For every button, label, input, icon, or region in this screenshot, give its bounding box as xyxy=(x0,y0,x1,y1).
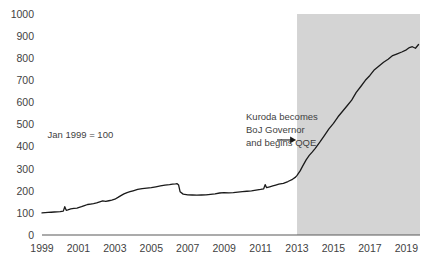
x-tick-label: 2011 xyxy=(249,242,272,254)
x-tick-label: 2005 xyxy=(140,242,164,254)
x-tick-label: 1999 xyxy=(30,242,54,254)
x-tick-label: 2017 xyxy=(358,242,382,254)
x-tick-label: 2007 xyxy=(176,242,200,254)
x-tick-label: 2019 xyxy=(395,242,419,254)
base-index-note: Jan 1999 = 100 xyxy=(47,129,113,140)
x-tick-label: 2013 xyxy=(285,242,309,254)
annotation-line: Kuroda becomes xyxy=(246,111,318,122)
shaded-regions-layer xyxy=(297,14,420,235)
qqe-period xyxy=(297,14,420,235)
y-tick-label: 400 xyxy=(16,140,34,152)
x-tick-label: 2003 xyxy=(103,242,127,254)
x-axis-tick-labels: 1999200120032005200720092011201320152017… xyxy=(30,242,418,254)
y-tick-label: 700 xyxy=(16,74,34,86)
y-tick-label: 800 xyxy=(16,52,34,64)
chart-svg: 01002003004005006007008009001000 1999200… xyxy=(0,0,433,272)
chart-figure: 01002003004005006007008009001000 1999200… xyxy=(0,0,433,272)
annotation-line: and begins QQE xyxy=(246,137,316,148)
y-tick-label: 0 xyxy=(28,229,34,241)
x-tick-label: 2001 xyxy=(67,242,91,254)
x-tick-label: 2009 xyxy=(212,242,236,254)
y-tick-label: 600 xyxy=(16,96,34,108)
y-tick-label: 500 xyxy=(16,118,34,130)
x-tick-label: 2015 xyxy=(322,242,346,254)
y-tick-label: 1000 xyxy=(11,8,35,20)
y-tick-label: 900 xyxy=(16,30,34,42)
y-tick-label: 200 xyxy=(16,185,34,197)
note-layer: Jan 1999 = 100 xyxy=(47,129,113,140)
annotation-line: BoJ Governor xyxy=(246,124,305,135)
y-axis-tick-labels: 01002003004005006007008009001000 xyxy=(11,8,35,241)
y-tick-label: 100 xyxy=(16,207,34,219)
y-tick-label: 300 xyxy=(16,163,34,175)
